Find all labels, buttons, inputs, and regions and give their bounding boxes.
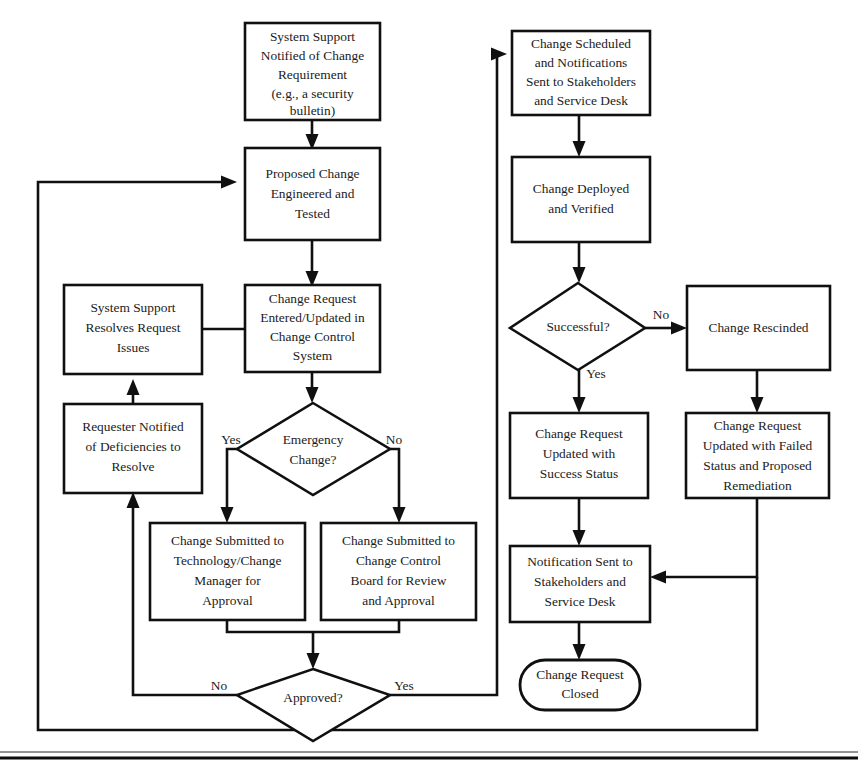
node-proposed-change-engineered[interactable]: Proposed Change Engineered and Tested xyxy=(245,148,380,240)
node-label-n6-line1: of Deficiencies to xyxy=(85,439,180,454)
node-label-n8-line2: Board for Review xyxy=(351,573,447,588)
node-label-n8-line0: Change Submitted to xyxy=(342,533,455,548)
arrowhead-approved-no-n6 xyxy=(127,492,140,508)
node-label-n3-line1: Entered/Updated in xyxy=(260,310,365,325)
node-label-n14-line2: Success Status xyxy=(540,466,618,481)
node-label-n4-line0: Emergency xyxy=(283,432,344,447)
arrowhead-successful-yes-n14 xyxy=(573,397,586,413)
arrowhead-n16-n17 xyxy=(573,644,586,660)
edge-label-successful-no: No xyxy=(653,307,670,322)
node-successful-decision[interactable]: Successful? xyxy=(510,283,645,370)
node-label-n14-line1: Updated with xyxy=(543,446,616,461)
edge-n7-n8-merge xyxy=(227,620,399,632)
arrowhead-n6-n5 xyxy=(127,379,140,395)
node-label-n8-line1: Change Control xyxy=(356,553,441,568)
node-label-n10-line3: and Service Desk xyxy=(534,93,628,108)
arrowhead-n10-n11 xyxy=(573,141,586,157)
node-label-n3-line3: System xyxy=(293,348,333,363)
node-notification-sent-stakeholders[interactable]: Notification Sent to Stakeholders and Se… xyxy=(510,546,650,622)
node-label-n5-line2: Issues xyxy=(117,340,150,355)
node-label-n8-line3: and Approval xyxy=(362,593,435,608)
node-label-n15-line0: Change Request xyxy=(714,418,802,433)
node-label-n2-line1: Engineered and xyxy=(271,186,355,201)
node-change-request-failed-status[interactable]: Change Request Updated with Failed Statu… xyxy=(686,413,829,498)
node-label-n3-line0: Change Request xyxy=(269,291,357,306)
arrowhead-emergency-no-n8 xyxy=(393,507,406,523)
node-label-n15-line3: Remediation xyxy=(723,478,792,493)
edge-emergency-yes-n7 xyxy=(227,449,237,513)
node-label-n13-line0: Change Rescinded xyxy=(708,320,808,335)
node-label-n1-line1: Notified of Change xyxy=(261,48,364,63)
flowchart-diagram: System Support Notified of Change Requir… xyxy=(0,0,858,782)
arrowhead-remediation-return-n2 xyxy=(221,176,237,189)
node-label-n9-line0: Approved? xyxy=(283,690,343,705)
node-label-n6-line0: Requester Notified xyxy=(82,419,184,434)
arrowhead-n13-n15 xyxy=(751,397,764,413)
node-emergency-change-decision[interactable]: Emergency Change? xyxy=(237,403,390,495)
arrowhead-n3-n4 xyxy=(306,387,319,403)
node-label-n16-line1: Stakeholders and xyxy=(534,574,626,589)
node-label-n7-line0: Change Submitted to xyxy=(171,533,284,548)
node-label-n17-line0: Change Request xyxy=(536,667,624,682)
node-label-n2-line0: Proposed Change xyxy=(265,166,359,181)
node-label-n1-line0: System Support xyxy=(270,29,355,44)
node-label-n10-line0: Change Scheduled xyxy=(531,36,631,51)
edge-label-approved-no: No xyxy=(211,678,228,693)
edge-label-emergency-no: No xyxy=(386,432,403,447)
node-label-n1-line3: (e.g., a security xyxy=(271,86,353,101)
node-label-n15-line1: Updated with Failed xyxy=(703,438,813,453)
arrowhead-n14-n16 xyxy=(573,530,586,546)
arrowhead-emergency-yes-n7 xyxy=(221,507,234,523)
node-system-support-resolves[interactable]: System Support Resolves Request Issues xyxy=(64,285,202,374)
node-label-n5-line1: Resolves Request xyxy=(86,320,181,335)
edge-label-emergency-yes: Yes xyxy=(221,432,240,447)
edge-label-successful-yes: Yes xyxy=(586,366,605,381)
connector-layer xyxy=(38,48,764,731)
node-shape-n11 xyxy=(512,157,650,242)
node-shape-n4 xyxy=(237,403,390,495)
flowchart-canvas: System Support Notified of Change Requir… xyxy=(0,0,858,782)
node-label-n2-line2: Tested xyxy=(295,206,330,221)
node-system-support-notified[interactable]: System Support Notified of Change Requir… xyxy=(245,23,380,120)
page-rule-group xyxy=(0,752,858,758)
node-label-n5-line0: System Support xyxy=(90,300,175,315)
node-label-n3-line2: Change Control xyxy=(270,329,355,344)
node-change-rescinded[interactable]: Change Rescinded xyxy=(687,286,830,370)
node-label-n4-line1: Change? xyxy=(290,452,337,467)
node-label-n6-line2: Resolve xyxy=(111,459,154,474)
node-label-n11-line0: Change Deployed xyxy=(533,181,630,196)
edge-n15-n16 xyxy=(660,498,757,577)
node-change-submitted-technology-manager[interactable]: Change Submitted to Technology/Change Ma… xyxy=(150,523,305,620)
edge-label-approved-yes: Yes xyxy=(394,678,413,693)
node-label-n16-line0: Notification Sent to xyxy=(527,554,633,569)
arrowhead-successful-no-n13 xyxy=(671,322,687,335)
node-label-n7-line1: Technology/Change xyxy=(174,553,282,568)
node-label-n12-line0: Successful? xyxy=(546,319,609,334)
node-layer: System Support Notified of Change Requir… xyxy=(64,23,830,741)
node-label-n14-line0: Change Request xyxy=(535,426,623,441)
node-change-scheduled-notifications[interactable]: Change Scheduled and Notifications Sent … xyxy=(512,31,650,115)
node-requester-notified-deficiencies[interactable]: Requester Notified of Deficiencies to Re… xyxy=(64,404,202,493)
node-label-n10-line1: and Notifications xyxy=(535,55,628,70)
arrowhead-approved-yes-n10 xyxy=(491,48,507,61)
node-label-n7-line2: Manager for xyxy=(194,573,261,588)
node-change-deployed-verified[interactable]: Change Deployed and Verified xyxy=(512,157,650,242)
node-label-n15-line2: Status and Proposed xyxy=(703,458,812,473)
arrowhead-merge-n9 xyxy=(307,653,320,669)
arrowhead-n11-n12 xyxy=(573,267,586,283)
node-label-n10-line2: Sent to Stakeholders xyxy=(526,74,636,89)
node-label-n7-line3: Approval xyxy=(202,593,253,608)
node-label-n1-line4: bulletin) xyxy=(290,103,335,118)
node-change-request-success-status[interactable]: Change Request Updated with Success Stat… xyxy=(510,413,648,498)
node-label-n17-line1: Closed xyxy=(561,686,599,701)
arrowhead-n15-n16 xyxy=(650,571,666,584)
node-label-n11-line1: and Verified xyxy=(548,201,614,216)
node-change-request-entered[interactable]: Change Request Entered/Updated in Change… xyxy=(245,285,380,372)
node-change-request-closed-terminator[interactable]: Change Request Closed xyxy=(520,660,640,710)
edge-emergency-no-n8 xyxy=(390,449,399,513)
node-label-n1-line2: Requirement xyxy=(278,67,347,82)
node-label-n16-line2: Service Desk xyxy=(544,594,615,609)
node-change-submitted-control-board[interactable]: Change Submitted to Change Control Board… xyxy=(321,523,476,620)
